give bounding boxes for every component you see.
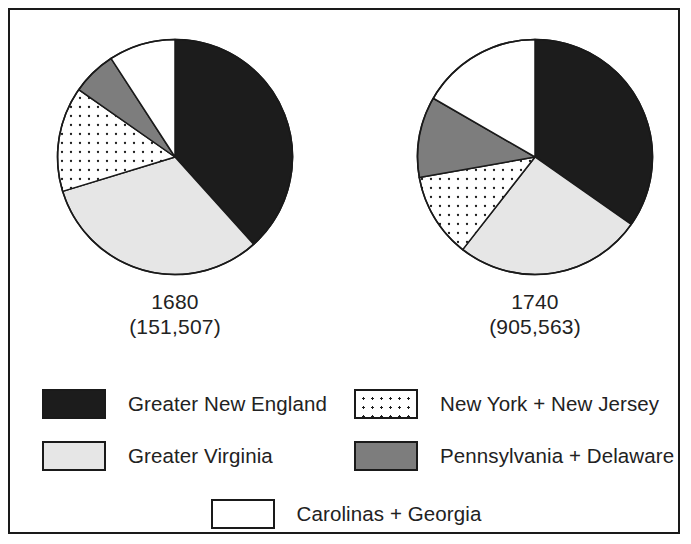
figure-border-frame: 1680 (151,507) 1740 (905,563) [8, 8, 680, 534]
legend-label-greater-virginia: Greater Virginia [128, 444, 273, 468]
pie-total-label-1740: (905,563) [410, 315, 660, 340]
legend-row-center: Carolinas + Georgia [24, 488, 668, 540]
legend-label-new-york-new-jersey: New York + New Jersey [440, 392, 659, 416]
legend-item-new-york-new-jersey: New York + New Jersey [342, 378, 668, 430]
legend-label-carolinas-georgia: Carolinas + Georgia [297, 502, 482, 526]
pie-svg-1740 [410, 32, 660, 282]
pie-svg-1680 [50, 32, 300, 282]
pie-caption-1680: 1680 (151,507) [50, 290, 300, 340]
legend-label-greater-new-england: Greater New England [128, 392, 327, 416]
legend-swatch-greater-new-england [42, 389, 106, 419]
chart-legend: Greater New England New York + New Jerse… [24, 378, 668, 540]
legend-item-greater-virginia: Greater Virginia [24, 430, 342, 482]
pie-total-label-1680: (151,507) [50, 315, 300, 340]
legend-swatch-carolinas-georgia [211, 499, 275, 529]
pie-chart-1680: 1680 (151,507) [50, 32, 300, 340]
legend-item-pennsylvania-delaware: Pennsylvania + Delaware [342, 430, 668, 482]
pie-slices-1740 [418, 40, 653, 275]
pie-slices-1680 [57, 40, 292, 275]
legend-item-carolinas-georgia: Carolinas + Georgia [211, 488, 482, 540]
legend-grid: Greater New England New York + New Jerse… [24, 378, 668, 482]
pie-chart-1740: 1740 (905,563) [410, 32, 660, 340]
pie-year-label-1740: 1740 [511, 290, 559, 313]
legend-label-pennsylvania-delaware: Pennsylvania + Delaware [440, 444, 674, 468]
legend-swatch-pennsylvania-delaware [354, 441, 418, 471]
legend-swatch-new-york-new-jersey [354, 389, 418, 419]
figure-canvas: 1680 (151,507) 1740 (905,563) [0, 0, 691, 544]
pie-caption-1740: 1740 (905,563) [410, 290, 660, 340]
pie-year-label-1680: 1680 [151, 290, 199, 313]
legend-swatch-greater-virginia [42, 441, 106, 471]
legend-item-greater-new-england: Greater New England [24, 378, 342, 430]
